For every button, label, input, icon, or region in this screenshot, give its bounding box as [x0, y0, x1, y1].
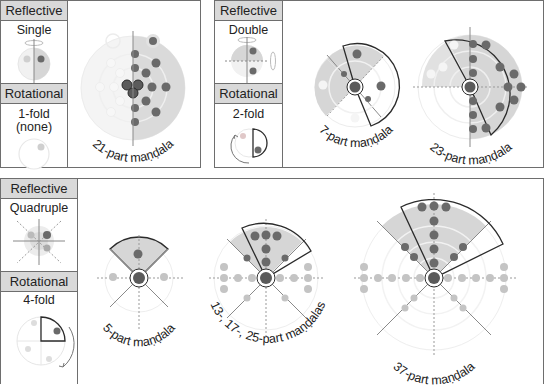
- panel-quadruple-reflective: Reflective Quadruple Rotational 4-fold: [0, 178, 544, 384]
- mandala-37-part: 37-part maṇḍala: [1, 179, 544, 385]
- mandala-23-part: 23-part maṇḍala: [215, 1, 544, 169]
- panel-single-reflective: Reflective Single Rotational 1-fold (non…: [0, 0, 201, 168]
- mandala-label: 37-part maṇḍala: [391, 359, 478, 385]
- mandala-21-part: 21-part maṇḍala: [1, 1, 202, 169]
- mandala-label: 23-part maṇḍala: [427, 140, 514, 168]
- panel-double-reflective: Reflective Double Rotational 2-fold: [214, 0, 544, 168]
